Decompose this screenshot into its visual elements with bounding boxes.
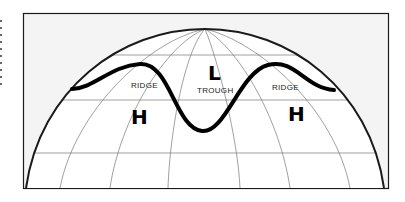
high-right-label: H [288, 102, 305, 126]
trough-label: TROUGH [197, 86, 233, 95]
ridge-right-label: RIDGE [272, 83, 299, 92]
high-left-label: H [131, 105, 148, 129]
ridge-trough-diagram: RIDGE TROUGH RIDGE H L H [0, 0, 405, 202]
low-label: L [208, 61, 221, 85]
ridge-left-label: RIDGE [131, 81, 158, 90]
